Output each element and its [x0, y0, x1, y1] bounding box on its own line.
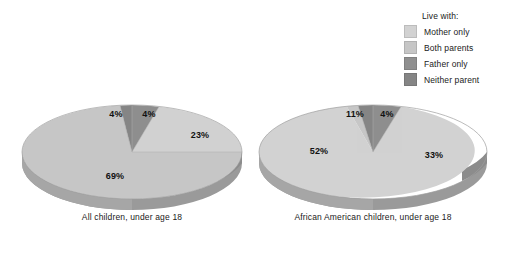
pie-face-all-children — [22, 105, 242, 199]
legend-title: Live with: — [422, 11, 507, 21]
pie-svg-african-american-children: 11% 4% 52% 33% — [254, 90, 492, 208]
legend-swatch-both-parents — [404, 41, 417, 54]
legend-label-father-only: Father only — [424, 59, 468, 69]
legend-swatch-father-only — [404, 57, 417, 70]
caption-african-american-children: African American children, under age 18 — [254, 212, 492, 222]
legend-item-father-only[interactable]: Father only — [404, 57, 507, 72]
legend-label-mother-only: Mother only — [424, 27, 470, 37]
pie-svg-all-children: 4% 4% 23% 69% — [18, 90, 246, 208]
pie-canvas-african-american-children: 11% 4% 52% 33% — [254, 90, 492, 208]
legend: Live with: Mother only Both parents Fath… — [404, 11, 507, 89]
slice-label-father-only: 4% — [380, 109, 393, 119]
slice-label-mother-only: 23% — [191, 130, 210, 140]
pie-chart-figure: Live with: Mother only Both parents Fath… — [0, 0, 507, 253]
legend-item-both-parents[interactable]: Both parents — [404, 41, 507, 56]
slice-label-both-parents: 33% — [425, 150, 444, 160]
legend-swatch-mother-only — [404, 25, 417, 38]
legend-label-neither-parent: Neither parent — [424, 75, 479, 85]
slice-label-both-parents: 69% — [106, 171, 125, 181]
legend-swatch-neither-parent — [404, 73, 417, 86]
legend-item-neither-parent[interactable]: Neither parent — [404, 73, 507, 88]
legend-label-both-parents: Both parents — [424, 43, 473, 53]
slice-label-mother-only: 52% — [310, 146, 329, 156]
pie-canvas-all-children: 4% 4% 23% 69% — [18, 90, 246, 208]
slice-label-father-only: 4% — [142, 109, 155, 119]
chart-african-american-children: 11% 4% 52% 33% African American children… — [254, 90, 492, 222]
slice-label-neither-parent: 4% — [109, 109, 122, 119]
slice-label-neither-parent: 11% — [346, 109, 364, 119]
chart-all-children: 4% 4% 23% 69% All children, under age 18 — [18, 90, 246, 222]
legend-item-mother-only[interactable]: Mother only — [404, 25, 507, 40]
caption-all-children: All children, under age 18 — [18, 212, 246, 222]
